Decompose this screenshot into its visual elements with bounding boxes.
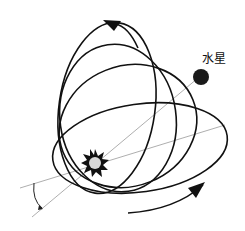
mercury-planet — [193, 69, 209, 85]
orbit-3 — [47, 92, 234, 204]
precession-diagram — [0, 0, 245, 231]
planet-label: 水星 — [202, 53, 226, 65]
orbit-2 — [41, 44, 216, 208]
precession-angle-arc — [34, 183, 42, 208]
arrow-head-bottom-icon — [188, 182, 205, 198]
angle-arrow-icon — [38, 205, 43, 210]
